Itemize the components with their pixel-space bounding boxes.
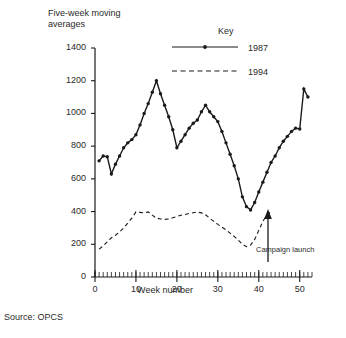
y-tick-label: 600 [50, 173, 86, 183]
x-tick-label: 40 [249, 284, 269, 294]
data-point-1987 [253, 201, 256, 204]
data-point-1987 [290, 130, 293, 133]
legend-marker-1987 [203, 45, 207, 49]
data-point-1987 [237, 177, 240, 180]
data-point-1987 [175, 146, 178, 149]
x-tick-label: 0 [85, 284, 105, 294]
y-tick-label: 1400 [50, 42, 86, 52]
y-tick-label: 200 [50, 238, 86, 248]
data-point-1987 [159, 92, 162, 95]
series-1994-line [99, 212, 271, 250]
legend-sample-lines [172, 45, 238, 71]
legend-item-1994: 1994 [248, 67, 268, 77]
x-tick-label: 20 [167, 284, 187, 294]
data-point-1987 [249, 208, 252, 211]
data-point-1987 [224, 141, 227, 144]
data-point-1987 [101, 154, 104, 157]
campaign-launch-arrow [264, 209, 272, 262]
data-point-1987 [294, 126, 297, 129]
y-tick-label: 1000 [50, 107, 86, 117]
data-point-1987 [282, 140, 285, 143]
data-point-1987 [179, 140, 182, 143]
y-tick-label: 1200 [50, 75, 86, 85]
data-point-1987 [130, 138, 133, 141]
y-tick-label: 0 [50, 271, 86, 281]
data-point-1987 [245, 205, 248, 208]
x-tick-label: 10 [126, 284, 146, 294]
data-point-1987 [278, 146, 281, 149]
data-point-1987 [110, 172, 113, 175]
data-point-1987 [114, 162, 117, 165]
data-point-1987 [122, 146, 125, 149]
x-axis-minor-ticks [95, 272, 312, 277]
data-point-1987 [196, 118, 199, 121]
data-point-1987 [216, 120, 219, 123]
data-point-1987 [273, 154, 276, 157]
data-point-1987 [306, 95, 309, 98]
arrow-head-icon [264, 209, 272, 219]
series-1987 [97, 79, 309, 212]
data-point-1987 [134, 133, 137, 136]
chart-figure: Five-week moving averages Key 1987 1994 … [0, 0, 346, 338]
data-point-1987 [265, 171, 268, 174]
data-point-1987 [106, 155, 109, 158]
data-point-1987 [257, 190, 260, 193]
data-point-1987 [183, 133, 186, 136]
data-point-1987 [286, 135, 289, 138]
data-point-1987 [97, 159, 100, 162]
data-point-1987 [208, 110, 211, 113]
data-point-1987 [192, 122, 195, 125]
source-note: Source: OPCS [4, 312, 63, 322]
y-tick-label: 400 [50, 206, 86, 216]
series-1987-markers [97, 79, 309, 212]
x-tick-label: 50 [290, 284, 310, 294]
data-point-1987 [163, 104, 166, 107]
data-point-1987 [220, 130, 223, 133]
series-1987-line [99, 81, 308, 210]
axis-lines [95, 48, 312, 277]
data-point-1987 [187, 126, 190, 129]
legend-title: Key [218, 26, 234, 36]
data-point-1987 [118, 154, 121, 157]
data-point-1987 [171, 128, 174, 131]
data-point-1987 [155, 79, 158, 82]
legend-item-1987: 1987 [248, 43, 268, 53]
data-point-1987 [147, 102, 150, 105]
series-1994 [99, 212, 271, 250]
data-point-1987 [302, 87, 305, 90]
data-point-1987 [261, 180, 264, 183]
data-point-1987 [269, 161, 272, 164]
data-point-1987 [167, 115, 170, 118]
y-tick-label: 800 [50, 140, 86, 150]
x-tick-label: 30 [208, 284, 228, 294]
data-point-1987 [233, 164, 236, 167]
annotation-campaign-launch: Campaign launch [256, 245, 314, 254]
data-point-1987 [204, 104, 207, 107]
y-axis-title: Five-week moving averages [48, 8, 178, 30]
data-point-1987 [151, 90, 154, 93]
data-point-1987 [298, 127, 301, 130]
data-point-1987 [142, 112, 145, 115]
data-point-1987 [138, 123, 141, 126]
data-point-1987 [241, 195, 244, 198]
data-point-1987 [228, 153, 231, 156]
data-point-1987 [126, 141, 129, 144]
data-point-1987 [200, 110, 203, 113]
data-point-1987 [212, 115, 215, 118]
